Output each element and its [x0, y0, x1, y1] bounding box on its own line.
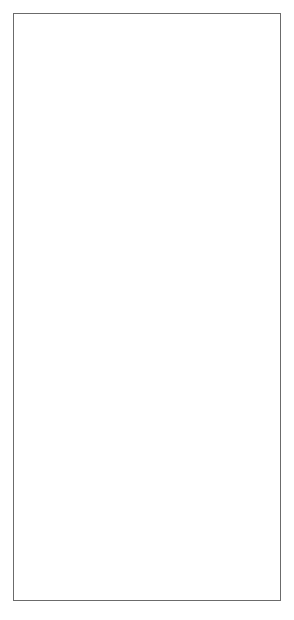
figure-container	[0, 0, 294, 620]
panel-bottom-chart	[13, 404, 281, 594]
panel-middle-chart	[13, 212, 281, 402]
panel-top-chart	[13, 16, 281, 206]
panel-middle	[13, 212, 281, 402]
panel-bottom	[13, 404, 281, 594]
panel-top	[13, 16, 281, 206]
